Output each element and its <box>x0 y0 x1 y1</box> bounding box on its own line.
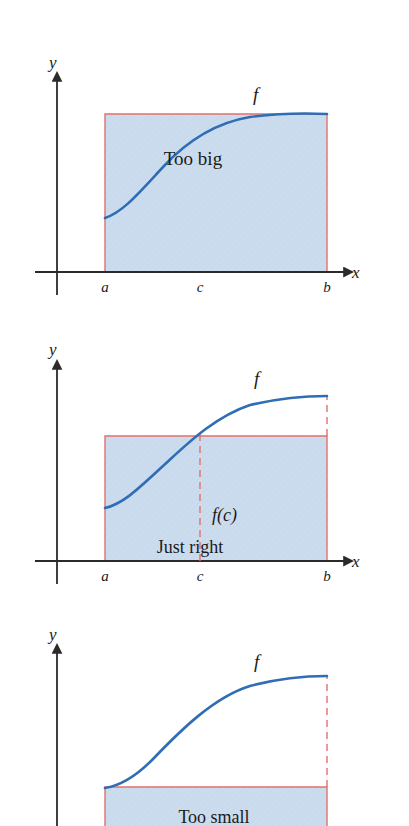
curve-f-panel-3 <box>105 676 327 788</box>
tick-label-b-panel-2: b <box>323 568 331 584</box>
tick-label-a-panel-1: a <box>101 279 109 295</box>
region-label-too-small: Too small <box>178 807 249 826</box>
curve-label-f-panel-2: f <box>254 368 262 389</box>
y-axis-label-panel-2: y <box>47 340 57 359</box>
panel-too-big: y x f Too big a c b <box>35 53 360 295</box>
y-axis-label-panel-3: y <box>47 625 57 644</box>
fc-label-panel-2: f(c) <box>212 505 237 526</box>
curve-label-f-panel-3: f <box>254 651 262 672</box>
panel-just-right: y x f f(c) Just right a c b <box>35 340 360 584</box>
mvt-integrals-figure: y x f Too big a c b y x f f(c) Just righ… <box>0 0 409 826</box>
tick-label-c-panel-1: c <box>197 279 204 295</box>
region-label-too-big: Too big <box>164 148 223 169</box>
tick-label-a-panel-2: a <box>101 568 109 584</box>
tick-label-c-panel-2: c <box>197 568 204 584</box>
panel-too-small: y f Too small <box>47 625 327 826</box>
region-label-just-right: Just right <box>157 537 224 557</box>
tick-label-b-panel-1: b <box>323 279 331 295</box>
x-axis-label-panel-1: x <box>351 263 360 282</box>
curve-label-f-panel-1: f <box>253 84 261 105</box>
figure-svg: y x f Too big a c b y x f f(c) Just righ… <box>0 0 409 826</box>
x-axis-label-panel-2: x <box>351 552 360 571</box>
y-axis-label-panel-1: y <box>47 53 57 72</box>
